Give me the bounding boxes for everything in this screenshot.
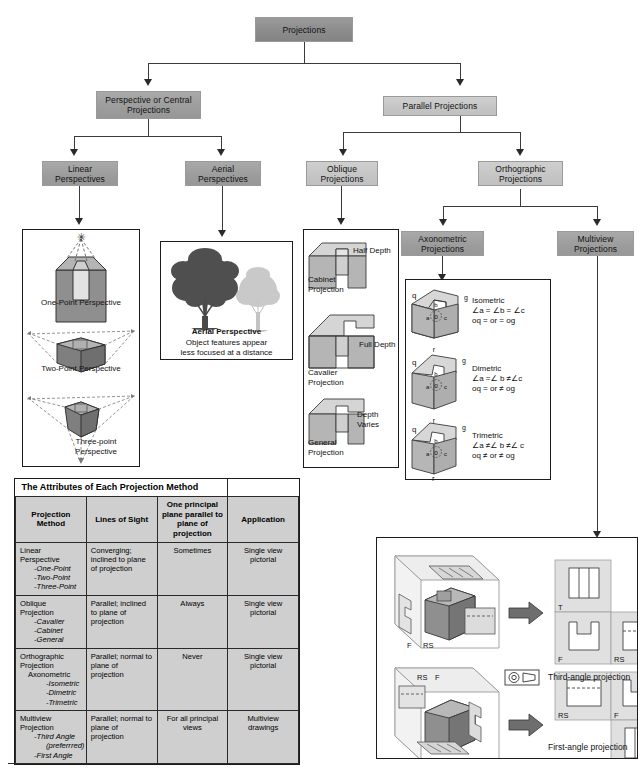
caption-text: One-Point Perspective (41, 298, 121, 307)
cell-method: Linear Perspective -One-Point -Two-Point… (16, 542, 87, 595)
connector (460, 63, 461, 80)
node-orthographic-projections[interactable]: Orthographic Projections (478, 161, 563, 186)
method-sub: -Three-Point (20, 582, 82, 591)
table-row: Oblique Projection -Cavalier -Cabinet -G… (16, 595, 299, 648)
cell-application: Multiview drawings (228, 710, 299, 763)
table-header-row: Projection Method Lines of Sight One pri… (16, 497, 299, 542)
cell-principal: Always (157, 595, 228, 648)
caption-text: oq = or = og (472, 316, 515, 325)
caption-third-angle-projection: Third-angle projection (548, 672, 630, 682)
node-perspective-central[interactable]: Perspective or Central Projections (96, 91, 201, 119)
col-principal-plane: One principal plane parallel to plane of… (157, 497, 228, 542)
caption-text: Cabinet Projection (308, 275, 344, 294)
svg-text:o: o (434, 313, 438, 320)
arrow-head (218, 230, 226, 237)
cell-method: Multiview Projection -Third Angle (prefe… (16, 710, 87, 763)
method-sub: -Cabinet (20, 626, 82, 635)
vertex-label-q-isometric: q (412, 291, 420, 301)
panel-multiview-projections: F RS T F (376, 537, 638, 759)
footer-rule (8, 763, 64, 764)
connector (443, 206, 444, 220)
connector (148, 63, 149, 80)
caption-text: ∠a ≠∠ b ≠∠ c (472, 441, 524, 450)
cell-sight: Parallel; normal to plane of projection (86, 648, 157, 710)
method-sub: (preferrred) (20, 741, 82, 750)
connector (597, 206, 598, 220)
node-oblique-projections[interactable]: Oblique Projections (306, 161, 378, 186)
node-projections[interactable]: Projections (255, 17, 353, 42)
method-sub: -Isometric (20, 679, 82, 688)
connector (520, 132, 521, 150)
cell-application: Single view pictorial (228, 648, 299, 710)
method-sub: -Cavalier (20, 617, 82, 626)
method-name: Orthographic Projection (20, 652, 82, 670)
table-title-row: The Attributes of Each Projection Method (16, 479, 299, 497)
label-half-depth: Half Depth (353, 246, 395, 256)
svg-text:RS: RS (417, 673, 427, 682)
caption-two-point: Two-Point Perspective (26, 364, 136, 374)
node-axonometric-projections[interactable]: Axonometric Projections (401, 231, 484, 256)
label-depth-varies: Depth Varies (357, 410, 397, 429)
svg-text:r: r (433, 346, 436, 353)
connector (341, 185, 342, 219)
svg-text:g: g (464, 294, 468, 302)
cell-method: Oblique Projection -Cavalier -Cabinet -G… (16, 595, 87, 648)
svg-text:o: o (434, 449, 438, 456)
caption-text: Object features appear (186, 338, 267, 347)
caption-text: Third-angle projection (548, 672, 630, 682)
connector (79, 185, 80, 219)
connector (222, 185, 223, 231)
caption-text: Half Depth (353, 246, 391, 255)
svg-text:T: T (558, 603, 563, 612)
caption-text: Full Depth (359, 340, 395, 349)
col-application: Application (228, 497, 299, 542)
connector (460, 115, 461, 133)
method-name: Linear Perspective (20, 546, 82, 564)
method-sub: -Two-Point (20, 573, 82, 582)
svg-text:F: F (407, 641, 412, 650)
svg-text:b: b (434, 302, 438, 308)
node-label: Multiview Projections (560, 234, 631, 254)
connector (74, 136, 75, 150)
svg-text:✳: ✳ (76, 231, 85, 243)
method-sub: -First Angle (20, 751, 82, 760)
arrow-head (217, 149, 225, 156)
label-trimetric-lengths: oq ≠ or ≠ og (472, 451, 546, 461)
label-dimetric-lengths: oq = or ≠ og (472, 384, 546, 394)
method-sub: -Third Angle (20, 732, 82, 741)
label-trimetric-angles: ∠a ≠∠ b ≠∠ c (472, 441, 546, 451)
method-name: Multiview Projection (20, 714, 82, 732)
method-sub: -One-Point (20, 564, 82, 573)
panel-linear-perspectives: ✳ (22, 229, 140, 467)
label-isometric-lengths: oq = or = og (472, 316, 546, 326)
table-row: Linear Perspective -One-Point -Two-Point… (16, 542, 299, 595)
connector (74, 136, 222, 137)
attributes-table-wrapper: The Attributes of Each Projection Method… (14, 478, 300, 765)
node-label: Projections (282, 25, 325, 35)
caption-text: Trimetric (472, 431, 503, 440)
vertex-label-q-trimetric: q (412, 425, 420, 435)
node-multiview-projections[interactable]: Multiview Projections (557, 231, 634, 256)
label-trimetric: Trimetric (472, 431, 546, 441)
cell-principal: For all principal views (157, 710, 228, 763)
table-title-spacer (228, 479, 299, 497)
connector (443, 206, 598, 207)
caption-text: Aerial Perspective (192, 327, 261, 336)
cell-sight: Parallel; normal to plane of projection (86, 710, 157, 763)
node-linear-perspectives[interactable]: Linear Perspectives (42, 161, 118, 186)
node-label: Oblique Projections (309, 164, 375, 184)
node-aerial-perspectives[interactable]: Aerial Perspectives (185, 161, 261, 186)
cell-sight: Parallel; inclined to plane of projectio… (86, 595, 157, 648)
linear-perspective-illustration: ✳ (23, 230, 139, 466)
node-parallel-projections[interactable]: Parallel Projections (383, 96, 497, 116)
attributes-table: The Attributes of Each Projection Method… (15, 479, 299, 764)
label-general-projection: General Projection (308, 438, 368, 457)
caption-text: r (432, 474, 435, 483)
caption-aerial-line2: less focused at a distance (160, 348, 293, 358)
multiview-illustration: F RS T F (377, 538, 637, 758)
connector (343, 132, 344, 150)
caption-one-point: One-Point Perspective (26, 298, 136, 308)
svg-text:F: F (614, 711, 619, 720)
method-group: Axonometric (20, 670, 82, 679)
arrow-head (337, 218, 345, 225)
